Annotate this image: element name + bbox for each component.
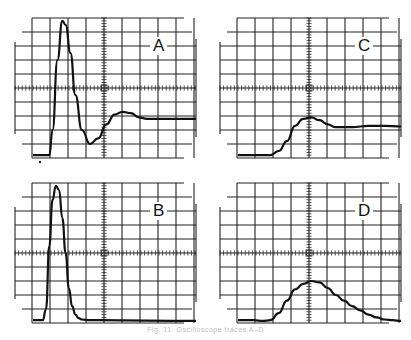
panel-label: A — [150, 37, 167, 55]
waveform-trace — [238, 117, 401, 155]
oscilloscope-graticule — [0, 0, 205, 165]
panel-b: B — [0, 165, 205, 330]
panel-d: D — [205, 165, 410, 330]
panel-c: C — [205, 0, 410, 165]
figure-caption: Fig. 11. Oscilloscope traces A–D — [0, 326, 411, 333]
panel-label: B — [150, 202, 167, 220]
oscilloscope-graticule — [205, 0, 410, 165]
waveform-trace — [238, 281, 401, 321]
panel-label: D — [355, 202, 373, 220]
panel-label: C — [355, 37, 373, 55]
oscilloscope-graticule — [0, 165, 205, 330]
panel-a: A — [0, 0, 205, 165]
oscilloscope-graticule — [205, 165, 410, 330]
